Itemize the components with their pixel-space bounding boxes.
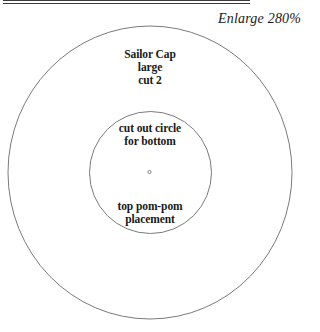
pattern-title-line: Sailor Cap: [90, 48, 210, 61]
pattern-cut-count-line: cut 2: [90, 74, 210, 87]
pompom-placement-label: top pom-pom placement: [90, 200, 210, 226]
pompom-center-mark: [148, 170, 151, 173]
inner-circle-label-line: for bottom: [90, 135, 210, 148]
inner-circle-label: cut out circle for bottom: [90, 122, 210, 148]
pattern-title: Sailor Cap large cut 2: [90, 48, 210, 87]
pattern-size-line: large: [90, 61, 210, 74]
pompom-label-line: placement: [90, 213, 210, 226]
inner-circle-label-line: cut out circle: [90, 122, 210, 135]
pompom-label-line: top pom-pom: [90, 200, 210, 213]
